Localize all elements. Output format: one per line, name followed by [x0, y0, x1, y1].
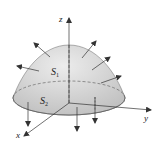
s2-subscript: 2 [45, 101, 48, 107]
s1-subscript: 1 [56, 72, 59, 78]
paraboloid-diagram: z y x S1 S2 [0, 0, 166, 152]
x-axis-label: x [15, 130, 20, 140]
z-axis-label: z [58, 14, 63, 24]
y-axis-label: y [143, 113, 148, 123]
